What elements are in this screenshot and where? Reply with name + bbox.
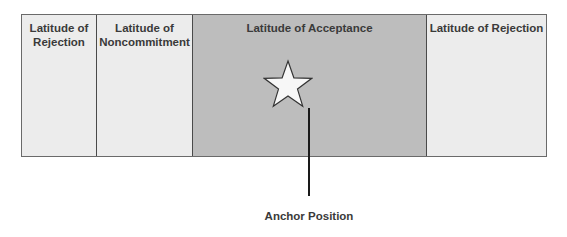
- anchor-position-label: Anchor Position: [209, 210, 409, 222]
- zone-latitude-of-noncommitment: Latitude of Noncommitment: [97, 15, 193, 156]
- zone-label: Latitude of Rejection: [427, 21, 546, 35]
- zone-latitude-of-rejection-right: Latitude of Rejection: [427, 15, 546, 156]
- zone-latitude-of-rejection-left: Latitude of Rejection: [22, 15, 97, 156]
- anchor-pointer-line: [308, 108, 310, 196]
- zone-label: Latitude of Rejection: [22, 21, 96, 49]
- star-icon: [263, 59, 313, 109]
- zone-label: Latitude of Noncommitment: [97, 21, 192, 49]
- zone-label: Latitude of Acceptance: [193, 21, 426, 35]
